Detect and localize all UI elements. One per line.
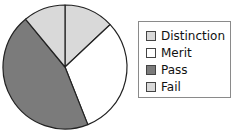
legend-item-distinction: Distinction xyxy=(146,27,230,44)
swatch-pass xyxy=(146,65,156,75)
pie-chart xyxy=(0,0,135,132)
legend-label: Pass xyxy=(161,63,188,77)
legend-item-pass: Pass xyxy=(146,61,230,78)
legend-label: Distinction xyxy=(161,29,225,43)
swatch-fail xyxy=(146,82,156,92)
swatch-merit xyxy=(146,48,156,58)
legend-label: Fail xyxy=(161,80,181,94)
legend-label: Merit xyxy=(161,46,192,60)
legend: Distinction Merit Pass Fail xyxy=(138,21,231,98)
swatch-distinction xyxy=(146,31,156,41)
legend-item-merit: Merit xyxy=(146,44,230,61)
legend-item-fail: Fail xyxy=(146,78,230,95)
